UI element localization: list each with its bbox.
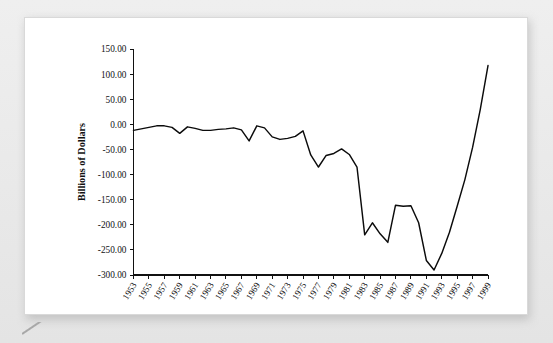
x-axis-tick-label: 1957 — [151, 280, 169, 301]
x-axis-tick-label: 1989 — [398, 280, 416, 301]
x-axis-tick-label: 1979 — [321, 280, 339, 301]
x-axis-tick-label: 1971 — [259, 281, 277, 302]
x-axis-tick-label: 1973 — [275, 280, 293, 301]
x-axis-tick-label: 1987 — [383, 280, 401, 301]
x-axis-tick-label: 1953 — [121, 280, 139, 301]
y-axis-tick-label: 150.00 — [101, 44, 127, 54]
x-axis-tick-label: 1997 — [460, 280, 478, 301]
figure-page: 150.00100.0050.000.00-50.00-100.00-150.0… — [0, 0, 553, 343]
chart-plot-area: 150.00100.0050.000.00-50.00-100.00-150.0… — [0, 0, 553, 343]
y-axis-tick-label: -300.00 — [98, 270, 127, 280]
y-axis-tick-label: -200.00 — [98, 220, 127, 230]
x-axis-tick-label: 1965 — [213, 280, 231, 301]
chart-series-line-0 — [134, 66, 489, 270]
x-axis-tick-label: 1995 — [444, 280, 462, 301]
x-axis-tick-label: 1967 — [228, 280, 246, 301]
line-chart: 150.00100.0050.000.00-50.00-100.00-150.0… — [0, 0, 553, 343]
x-axis-tick-label: 1991 — [413, 281, 431, 302]
x-axis-tick-label: 1985 — [367, 280, 385, 301]
x-axis-tick-label: 1999 — [475, 280, 493, 301]
x-axis-tick-label: 1963 — [198, 280, 216, 301]
x-axis-tick-label: 1975 — [290, 280, 308, 301]
x-axis-tick-label: 1959 — [167, 280, 185, 301]
y-axis-tick-label: -150.00 — [98, 195, 127, 205]
y-axis-tick-label: 50.00 — [106, 95, 127, 105]
y-axis-tick-label: -100.00 — [98, 170, 127, 180]
y-axis-tick-label: 0.00 — [110, 120, 127, 130]
x-axis-tick-label: 1969 — [244, 280, 262, 301]
y-axis-tick-label: -50.00 — [102, 145, 126, 155]
y-axis-tick-label: -250.00 — [98, 245, 127, 255]
x-axis-tick-label: 1983 — [352, 280, 370, 301]
x-axis-tick-label: 1961 — [182, 281, 200, 302]
x-axis-tick-label: 1993 — [429, 280, 447, 301]
x-axis-tick-label: 1981 — [336, 281, 354, 302]
x-axis-tick-label: 1955 — [136, 280, 154, 301]
y-axis-tick-label: 100.00 — [101, 70, 127, 80]
x-axis-tick-label: 1977 — [306, 280, 324, 301]
y-axis-title: Billions of Dollars — [76, 123, 87, 201]
